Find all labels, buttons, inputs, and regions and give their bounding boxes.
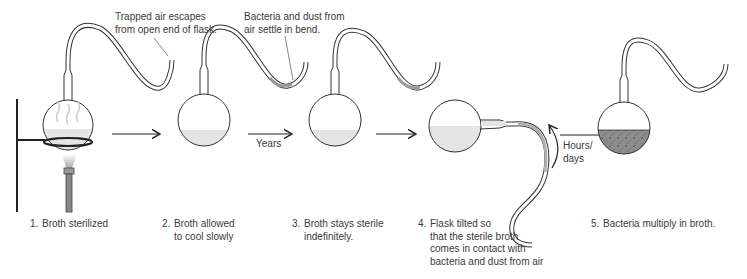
callout-line: Trapped air escapes	[115, 11, 217, 24]
callout-line: air settle in bend.	[244, 24, 345, 37]
flask-2-cooling	[176, 27, 306, 150]
callout-bacteria-dust: Bacteria and dust from air settle in ben…	[244, 11, 345, 36]
callout-line: Bacteria and dust from	[244, 11, 345, 24]
callout-trapped-air: Trapped air escapes from open end of fla…	[115, 11, 217, 36]
tilt-arrow	[549, 125, 558, 168]
flask-5-contaminated	[598, 40, 726, 156]
flask-3-sterile	[307, 30, 438, 150]
callout-line: from open end of flask.	[115, 24, 217, 37]
transition-label-years: Years	[256, 138, 281, 151]
callout-line-trapped-air	[154, 38, 168, 56]
flask-1-sterilizing	[17, 25, 172, 212]
callout-line-bacteria-dust	[285, 36, 293, 80]
burner-tube	[66, 174, 72, 212]
transition-label-hours-days: Hours/ days	[563, 140, 592, 165]
burner-flame	[62, 154, 77, 168]
burner-nozzle	[64, 168, 74, 174]
